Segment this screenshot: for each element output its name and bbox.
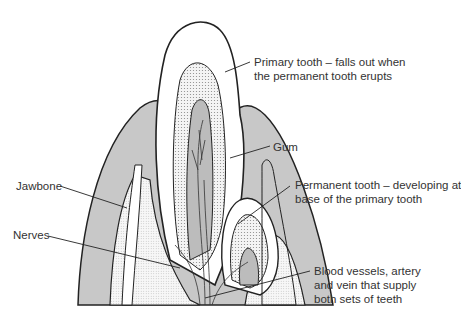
label-gum: Gum [273,140,298,154]
label-jawbone: Jawbone [16,179,62,193]
label-nerves: Nerves [13,228,49,242]
label-blood-vessels: Blood vessels, artery and vein that supp… [314,264,421,306]
label-permanent-tooth: Permanent tooth – developing at base of … [295,178,461,206]
label-primary-tooth: Primary tooth – falls out when the perma… [254,55,406,83]
